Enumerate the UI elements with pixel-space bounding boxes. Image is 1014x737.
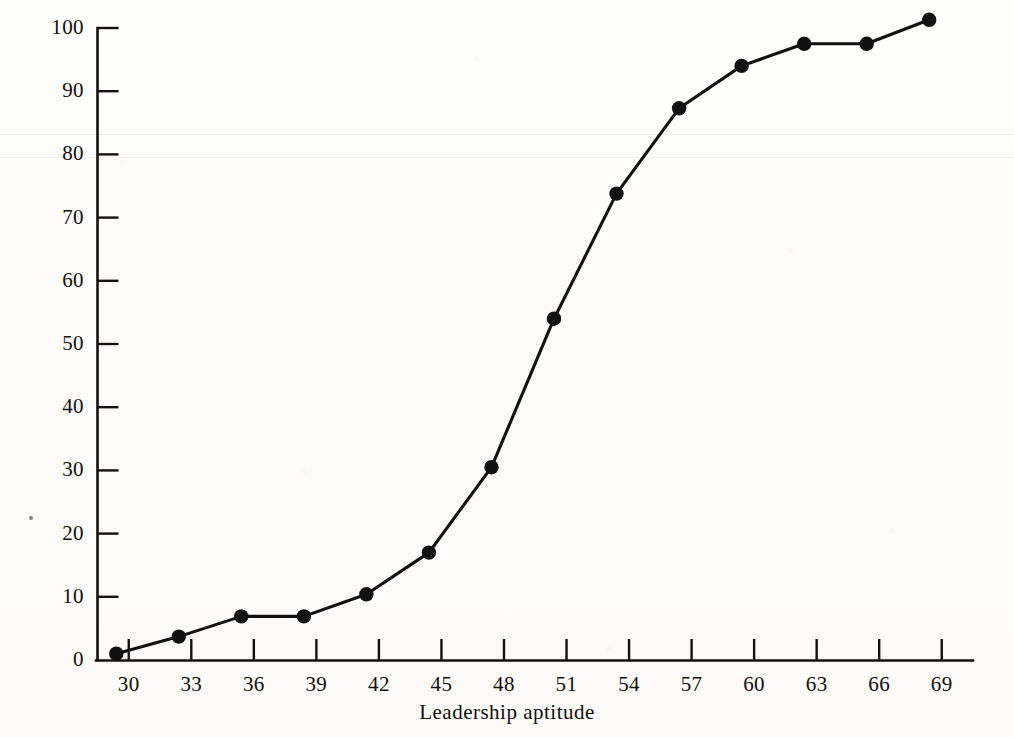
- data-point: [860, 37, 874, 51]
- x-axis-title: Leadership aptitude: [0, 700, 1014, 725]
- y-tick-label: 0: [30, 649, 84, 670]
- data-point: [297, 609, 311, 623]
- x-tick-label: 45: [411, 674, 471, 695]
- data-point: [234, 609, 248, 623]
- y-tick-label: 70: [30, 207, 84, 228]
- data-point: [609, 186, 623, 200]
- data-point: [484, 460, 498, 474]
- x-tick-label: 33: [161, 674, 221, 695]
- y-tick-label: 30: [30, 459, 84, 480]
- data-point: [547, 312, 561, 326]
- cumulative-frequency-chart: 0102030405060708090100 30333639424548515…: [0, 0, 1014, 737]
- x-tick-label: 30: [99, 674, 159, 695]
- data-point: [172, 629, 186, 643]
- x-tick-label: 42: [349, 674, 409, 695]
- axis-lines: [96, 28, 973, 661]
- x-tick-marks: [129, 639, 942, 660]
- x-tick-label: 60: [724, 674, 784, 695]
- data-point: [734, 59, 748, 73]
- data-point: [672, 101, 686, 115]
- data-point: [359, 587, 373, 601]
- x-tick-label: 69: [912, 674, 972, 695]
- y-tick-label: 40: [30, 396, 84, 417]
- y-tick-label: 90: [30, 80, 84, 101]
- x-tick-label: 63: [787, 674, 847, 695]
- x-tick-label: 54: [599, 674, 659, 695]
- y-tick-label: 80: [30, 143, 84, 164]
- x-tick-label: 39: [286, 674, 346, 695]
- data-point-markers: [109, 13, 936, 661]
- y-tick-label: 60: [30, 270, 84, 291]
- data-point: [109, 647, 123, 661]
- data-series-line: [116, 20, 929, 654]
- plot-area: [0, 0, 1014, 737]
- y-tick-label: 10: [30, 586, 84, 607]
- x-tick-label: 51: [537, 674, 597, 695]
- x-tick-label: 57: [662, 674, 722, 695]
- data-point: [922, 13, 936, 27]
- data-point: [797, 37, 811, 51]
- data-point: [422, 545, 436, 559]
- x-tick-label: 48: [474, 674, 534, 695]
- y-tick-label: 50: [30, 333, 84, 354]
- x-tick-label: 36: [224, 674, 284, 695]
- y-tick-label: 20: [30, 523, 84, 544]
- x-tick-label: 66: [849, 674, 909, 695]
- y-tick-marks: [98, 28, 119, 597]
- y-tick-label: 100: [30, 17, 84, 38]
